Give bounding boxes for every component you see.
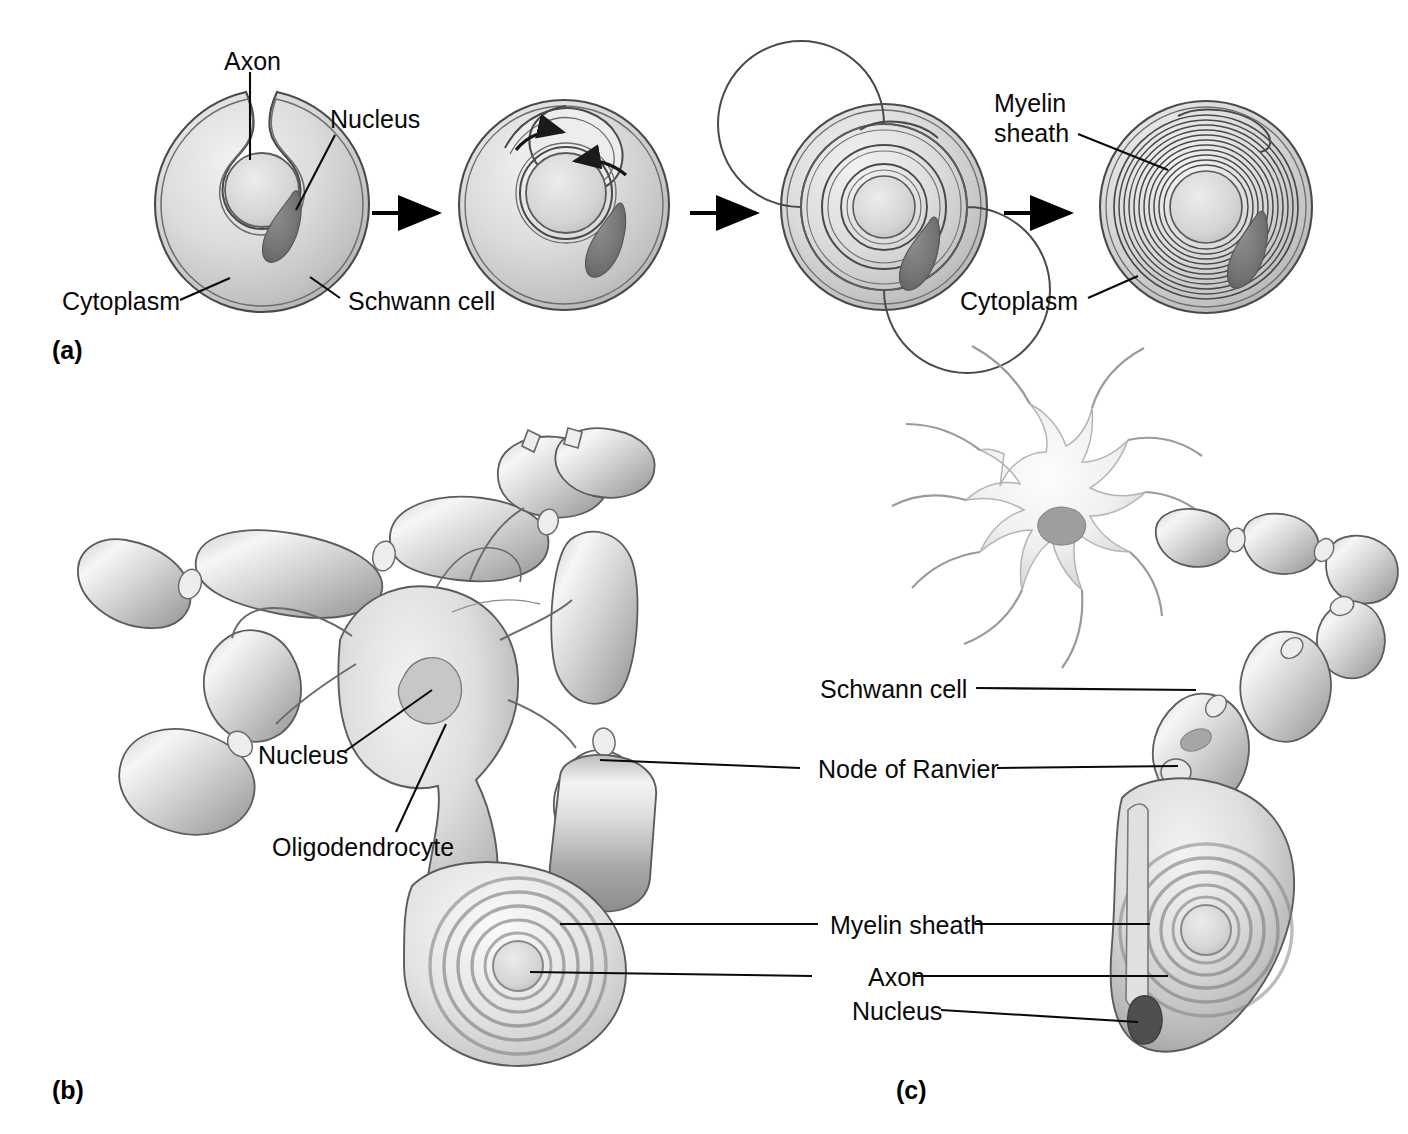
label-schwann-cell-c: Schwann cell <box>820 674 967 704</box>
label-axon-a: Axon <box>224 46 281 76</box>
figure-canvas <box>0 0 1408 1134</box>
label-nucleus-a: Nucleus <box>330 104 420 134</box>
panel-a-stage-2 <box>459 100 669 310</box>
neuron-soma <box>892 346 1208 668</box>
panel-tag-c: (c) <box>896 1076 927 1105</box>
leader-schwann-cell-c <box>976 688 1196 690</box>
label-node-of-ranvier-c: Node of Ranvier <box>818 754 999 784</box>
label-myelin-sheath-a-line1: Myelin <box>994 88 1066 118</box>
label-cytoplasm-a: Cytoplasm <box>62 286 180 316</box>
panel-b-illustration <box>78 428 656 1066</box>
label-nucleus-c: Nucleus <box>852 996 942 1026</box>
label-myelin-sheath-c: Myelin sheath <box>830 910 984 940</box>
schwann-nucleus-cutaway <box>1128 996 1162 1044</box>
label-myelin-sheath-a-line2: sheath <box>994 118 1069 148</box>
axon-core-c <box>1181 905 1231 955</box>
label-schwann-cell-a: Schwann cell <box>348 286 495 316</box>
panel-tag-b: (b) <box>52 1076 84 1105</box>
myelination-figure: Axon Nucleus Cytoplasm Schwann cell Myel… <box>0 0 1408 1134</box>
axon-core-b <box>493 941 543 991</box>
label-axon-c: Axon <box>868 962 925 992</box>
panel-a-illustration <box>155 41 1312 373</box>
label-oligodendrocyte-b: Oligodendrocyte <box>272 832 454 862</box>
panel-tag-a: (a) <box>52 336 83 365</box>
soma-nucleus <box>1038 507 1086 545</box>
cut-edge-c <box>1126 804 1148 1009</box>
panel-c-internodes <box>1153 509 1398 808</box>
panel-c-cutaway <box>1111 778 1295 1051</box>
panel-a-stage-4 <box>1100 101 1312 313</box>
leader-nucleus-c <box>941 1010 1138 1022</box>
label-nucleus-b: Nucleus <box>258 740 348 770</box>
leader-node-of-ranvier-c <box>997 766 1178 768</box>
leader-cytoplasm-right <box>1088 276 1138 298</box>
label-cytoplasm-a-right: Cytoplasm <box>960 286 1078 316</box>
